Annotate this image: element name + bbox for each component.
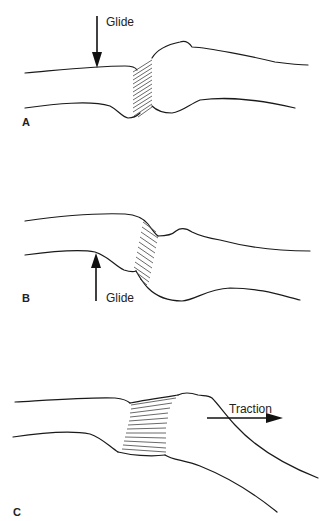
panel-c-proximal-bone-bottom: [13, 432, 118, 452]
panel-b-distal-bone-bottom: [136, 271, 300, 301]
panel-c-arrow-label: Traction: [229, 403, 272, 415]
panel-a-distal-bone-top: [152, 41, 308, 65]
panel-c-distal-bone-bottom: [165, 455, 277, 512]
panel-c-proximal-bone-top: [15, 398, 130, 403]
panel-a-distal-bone-bottom: [152, 98, 295, 113]
joint-mobilization-diagram: [0, 0, 326, 521]
panel-b-label: B: [22, 293, 30, 304]
panel-c-drawing: [13, 393, 318, 512]
panel-c-joint-capsule-hatching: [122, 398, 176, 452]
panel-c-joint-bottom-edge: [118, 452, 165, 456]
panel-b-arrow-label: Glide: [106, 292, 134, 304]
panel-c-label: C: [13, 507, 21, 518]
panel-b-distal-bone-top: [158, 229, 310, 251]
panel-b-glide-arrow: [91, 253, 101, 301]
panel-a-proximal-bone-top: [25, 66, 137, 73]
panel-a-label: A: [22, 117, 30, 128]
panel-b-proximal-bone-bottom: [25, 251, 136, 272]
panel-a-drawing: [25, 16, 308, 118]
panel-a-proximal-bone-bottom: [25, 103, 140, 118]
panel-a-glide-arrow: [92, 16, 102, 68]
panel-b-proximal-bone-top: [25, 214, 158, 236]
panel-a-arrow-label: Glide: [106, 16, 134, 28]
panel-b-drawing: [25, 214, 310, 301]
